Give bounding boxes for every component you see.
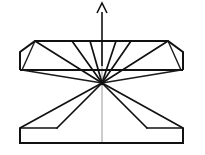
hub-point xyxy=(100,81,105,86)
figure-canvas xyxy=(0,0,205,155)
figure-root xyxy=(0,0,205,155)
